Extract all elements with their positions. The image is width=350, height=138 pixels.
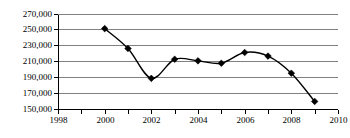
x-axis-tick-label: 2000 xyxy=(97,115,116,125)
y-axis-tick-label: 170,000 xyxy=(23,88,53,98)
data-series-line xyxy=(105,29,315,102)
line-chart: 150,000170,000190,000210,000230,000250,0… xyxy=(0,0,350,138)
y-axis-tick-label: 190,000 xyxy=(23,72,53,82)
x-axis-tick-label: 1998 xyxy=(50,115,69,125)
data-point-markers xyxy=(101,25,318,104)
x-axis-tick-label: 2002 xyxy=(143,115,161,125)
y-axis-labels: 150,000170,000190,000210,000230,000250,0… xyxy=(23,9,53,114)
x-axis-tick-label: 2004 xyxy=(190,115,209,125)
data-point-marker xyxy=(265,53,272,60)
x-axis-tick-label: 2006 xyxy=(237,115,256,125)
data-point-marker xyxy=(148,75,155,82)
data-point-marker xyxy=(241,49,248,56)
x-axis-labels: 1998200020022004200620082010 xyxy=(50,115,349,125)
series-line-path xyxy=(105,29,315,102)
x-axis-tick-label: 2008 xyxy=(283,115,302,125)
x-axis-ticks xyxy=(59,110,339,114)
y-axis-tick-label: 250,000 xyxy=(23,24,53,34)
data-point-marker xyxy=(218,60,225,67)
chart-canvas: 150,000170,000190,000210,000230,000250,0… xyxy=(0,0,350,138)
y-axis-tick-label: 210,000 xyxy=(23,56,53,66)
data-point-marker xyxy=(195,58,202,65)
y-axis-tick-label: 230,000 xyxy=(23,40,53,50)
y-axis-tick-label: 150,000 xyxy=(23,104,53,114)
y-axis-tick-label: 270,000 xyxy=(23,9,53,19)
x-axis-tick-label: 2010 xyxy=(330,115,349,125)
